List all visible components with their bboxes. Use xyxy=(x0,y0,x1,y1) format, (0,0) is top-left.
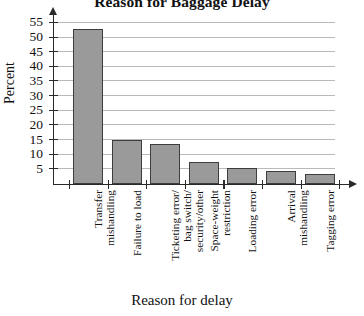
bar xyxy=(227,168,257,184)
bar xyxy=(150,144,180,184)
x-category-label-line: Loading error xyxy=(247,190,259,270)
x-category-label-line: mishandling xyxy=(105,190,117,270)
y-tick-mark: 35 xyxy=(49,80,58,81)
y-tick-mark: 55 xyxy=(49,22,58,23)
bar xyxy=(73,29,103,184)
x-tick-mark xyxy=(108,180,109,189)
y-axis-title: Percent xyxy=(2,48,18,118)
y-tick-mark: 45 xyxy=(49,51,58,52)
y-tick-label: 15 xyxy=(30,133,44,147)
y-tick-label: 20 xyxy=(30,118,44,132)
x-category-label-line: Failure to load xyxy=(132,190,144,270)
gridline xyxy=(53,22,335,23)
x-category-label: Loading error xyxy=(247,190,259,270)
x-category-label: Space-weightrestriction xyxy=(209,190,233,270)
y-tick-label: 25 xyxy=(30,103,44,117)
y-tick-label: 30 xyxy=(30,89,44,103)
x-category-label-line: restriction xyxy=(221,190,233,270)
y-tick-label: 5 xyxy=(36,162,43,176)
y-tick-mark: 40 xyxy=(49,66,58,67)
x-tick-mark xyxy=(339,180,340,189)
x-tick-mark xyxy=(223,180,224,189)
x-category-label-line: mishandling xyxy=(298,190,310,270)
x-tick-mark xyxy=(185,180,186,189)
y-tick-mark: 10 xyxy=(49,154,58,155)
bar xyxy=(266,171,296,184)
y-tick-label: 45 xyxy=(30,45,44,59)
y-tick-mark: 15 xyxy=(49,139,58,140)
x-category-label: Transfermishandling xyxy=(93,190,117,270)
y-axis-arrow-icon xyxy=(49,7,57,15)
y-tick-label: 35 xyxy=(30,74,44,88)
plot-area: 510152025303540455055 xyxy=(53,14,353,185)
x-category-label: Tagging error xyxy=(325,190,337,270)
y-tick-label: 55 xyxy=(30,15,44,29)
x-tick-mark xyxy=(262,180,263,189)
x-tick-mark xyxy=(146,180,147,189)
y-tick-mark: 50 xyxy=(49,37,58,38)
y-tick-mark: 30 xyxy=(49,95,58,96)
y-tick-label: 40 xyxy=(30,59,44,73)
x-tick-mark xyxy=(69,180,70,189)
y-axis-line xyxy=(53,14,54,185)
x-category-label-line: Tagging error xyxy=(325,190,337,270)
bar-chart: Reason for Baggage Delay Percent 5101520… xyxy=(0,0,364,316)
x-category-label: Arrivalmishandling xyxy=(286,190,310,270)
x-category-label: Ticketing error/bag switch/security/othe… xyxy=(170,190,206,270)
y-tick-mark: 5 xyxy=(49,168,58,169)
bar xyxy=(189,162,219,184)
bar xyxy=(305,174,335,184)
x-category-label-line: Space-weight xyxy=(209,190,221,270)
y-tick-label: 50 xyxy=(30,30,44,44)
y-tick-mark: 20 xyxy=(49,124,58,125)
x-axis-title: Reason for delay xyxy=(0,292,364,309)
x-category-label-line: security/other xyxy=(194,190,206,270)
bar xyxy=(112,140,142,184)
x-axis-arrow-icon xyxy=(349,180,357,188)
x-category-label: Failure to load xyxy=(132,190,144,270)
y-tick-mark: 25 xyxy=(49,110,58,111)
x-tick-mark xyxy=(301,180,302,189)
y-tick-label: 10 xyxy=(30,147,44,161)
